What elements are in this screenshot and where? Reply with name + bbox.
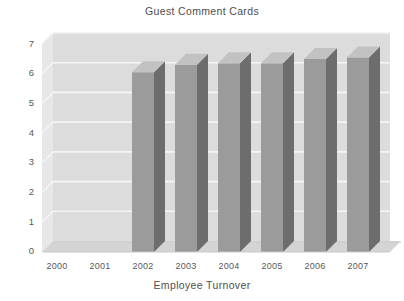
bar-front-2007 <box>347 57 369 252</box>
y-axis-tick-0: 0 <box>8 246 34 256</box>
x-axis-tick-2001: 2001 <box>78 261 122 271</box>
y-axis-tick-3: 3 <box>8 157 34 167</box>
x-axis-tick-2000: 2000 <box>35 261 79 271</box>
x-axis-tick-2007: 2007 <box>336 261 380 271</box>
bar-front-2006 <box>304 59 326 252</box>
bar-front-2004 <box>218 63 240 252</box>
x-axis-tick-2006: 2006 <box>293 261 337 271</box>
y-axis-tick-7: 7 <box>8 39 34 49</box>
bar-side-2005 <box>283 52 294 252</box>
x-axis-title: Employee Turnover <box>0 279 404 291</box>
x-axis-tick-2002: 2002 <box>121 261 165 271</box>
bar-2004 <box>218 52 251 252</box>
y-axis-tick-6: 6 <box>8 68 34 78</box>
x-axis-tick-2005: 2005 <box>250 261 294 271</box>
y-axis-tick-5: 5 <box>8 98 34 108</box>
y-axis-tick-2: 2 <box>8 187 34 197</box>
x-axis-tick-2003: 2003 <box>164 261 208 271</box>
bar-2005 <box>261 52 294 252</box>
plot-left-wall <box>42 33 53 252</box>
bar-side-2006 <box>326 48 337 252</box>
bar-2003 <box>175 54 208 252</box>
bar-side-2007 <box>369 46 380 252</box>
bar-side-2002 <box>154 61 165 252</box>
y-axis-tick-1: 1 <box>8 217 34 227</box>
x-axis-tick-2004: 2004 <box>207 261 251 271</box>
bar-side-2004 <box>240 52 251 252</box>
chart-plot-area <box>0 0 404 301</box>
bar-2006 <box>304 48 337 252</box>
bar-2002 <box>132 61 165 252</box>
bar-2007 <box>347 46 380 252</box>
bar-front-2002 <box>132 72 154 252</box>
bar-side-2003 <box>197 54 208 252</box>
chart-container: Guest Comment Cards <box>0 0 404 301</box>
bar-front-2003 <box>175 65 197 252</box>
y-axis-tick-4: 4 <box>8 128 34 138</box>
bar-front-2005 <box>261 63 283 252</box>
